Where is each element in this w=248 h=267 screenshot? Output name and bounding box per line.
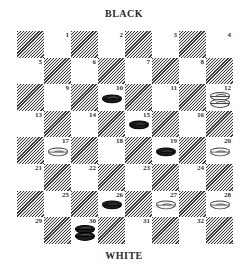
white-king-piece-icon: [210, 92, 230, 108]
dark-square: [44, 58, 71, 85]
square-19: 19: [152, 137, 179, 164]
square-25: 25: [44, 191, 71, 218]
square-23: 23: [125, 164, 152, 191]
dark-square: [152, 58, 179, 85]
dark-square: [71, 137, 98, 164]
square-number: 10: [116, 85, 123, 92]
square-number: 27: [170, 192, 177, 199]
square-3: 3: [152, 31, 179, 58]
black-man-piece-icon: [129, 121, 149, 130]
square-1: 1: [44, 31, 71, 58]
square-26: 26: [98, 191, 125, 218]
black-side-label: BLACK: [0, 8, 248, 19]
dark-square: [71, 191, 98, 218]
dark-square: [179, 31, 206, 58]
square-number: 4: [228, 32, 232, 39]
square-number: 18: [116, 138, 123, 145]
square-4: 4: [206, 31, 233, 58]
square-29: 29: [17, 217, 44, 244]
dark-square: [17, 84, 44, 111]
square-10: 10: [98, 84, 125, 111]
dark-square: [17, 137, 44, 164]
white-side-label: WHITE: [0, 250, 248, 261]
square-7: 7: [125, 58, 152, 85]
square-11: 11: [152, 84, 179, 111]
dark-square: [125, 31, 152, 58]
square-5: 5: [17, 58, 44, 85]
square-17: 17: [44, 137, 71, 164]
square-2: 2: [98, 31, 125, 58]
square-number: 22: [89, 165, 96, 172]
dark-square: [98, 111, 125, 138]
square-15: 15: [125, 111, 152, 138]
dark-square: [206, 111, 233, 138]
dark-square: [179, 137, 206, 164]
white-man-piece-icon: [210, 201, 230, 210]
square-number: 3: [174, 32, 178, 39]
square-number: 19: [170, 138, 177, 145]
square-number: 2: [120, 32, 124, 39]
square-8: 8: [179, 58, 206, 85]
dark-square: [125, 137, 152, 164]
square-number: 8: [201, 59, 205, 66]
square-number: 6: [93, 59, 97, 66]
square-number: 17: [62, 138, 69, 145]
square-12: 12: [206, 84, 233, 111]
square-number: 28: [224, 192, 231, 199]
square-number: 31: [143, 218, 150, 225]
dark-square: [152, 111, 179, 138]
square-14: 14: [71, 111, 98, 138]
square-number: 7: [147, 59, 151, 66]
square-24: 24: [179, 164, 206, 191]
square-28: 28: [206, 191, 233, 218]
square-9: 9: [44, 84, 71, 111]
square-number: 29: [35, 218, 42, 225]
square-number: 16: [197, 112, 204, 119]
square-22: 22: [71, 164, 98, 191]
dark-square: [98, 217, 125, 244]
dark-square: [71, 84, 98, 111]
black-man-piece-icon: [156, 148, 176, 157]
dark-square: [17, 191, 44, 218]
square-16: 16: [179, 111, 206, 138]
square-number: 26: [116, 192, 123, 199]
dark-square: [206, 58, 233, 85]
square-21: 21: [17, 164, 44, 191]
square-number: 32: [197, 218, 204, 225]
white-man-piece-icon: [48, 148, 68, 157]
square-number: 5: [39, 59, 43, 66]
square-31: 31: [125, 217, 152, 244]
square-number: 13: [35, 112, 42, 119]
checkerboard: 1234567891011121314151617181920212223242…: [17, 31, 233, 244]
black-man-piece-icon: [102, 94, 122, 103]
square-13: 13: [17, 111, 44, 138]
square-number: 20: [224, 138, 231, 145]
square-number: 23: [143, 165, 150, 172]
square-20: 20: [206, 137, 233, 164]
dark-square: [44, 164, 71, 191]
dark-square: [44, 217, 71, 244]
dark-square: [98, 58, 125, 85]
square-6: 6: [71, 58, 98, 85]
square-27: 27: [152, 191, 179, 218]
dark-square: [152, 164, 179, 191]
square-number: 15: [143, 112, 150, 119]
dark-square: [179, 191, 206, 218]
white-man-piece-icon: [156, 201, 176, 210]
square-number: 25: [62, 192, 69, 199]
dark-square: [206, 217, 233, 244]
dark-square: [125, 191, 152, 218]
dark-square: [17, 31, 44, 58]
square-32: 32: [179, 217, 206, 244]
dark-square: [152, 217, 179, 244]
square-30: 30: [71, 217, 98, 244]
white-man-piece-icon: [210, 148, 230, 157]
dark-square: [98, 164, 125, 191]
dark-square: [179, 84, 206, 111]
dark-square: [206, 164, 233, 191]
square-number: 24: [197, 165, 204, 172]
square-number: 21: [35, 165, 42, 172]
square-number: 11: [170, 85, 177, 92]
black-king-piece-icon: [75, 225, 95, 241]
dark-square: [125, 84, 152, 111]
